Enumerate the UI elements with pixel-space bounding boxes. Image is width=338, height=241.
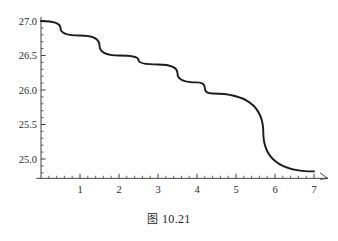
y-tick-label: 26.0 — [19, 85, 37, 96]
x-tick-label: 3 — [155, 184, 160, 195]
x-tick-label: 4 — [194, 184, 200, 195]
x-tick-label: 7 — [311, 184, 316, 195]
y-tick-label: 25.5 — [19, 119, 37, 130]
y-tick-label: 25.0 — [19, 154, 37, 165]
caption-prefix: 图 — [147, 213, 158, 226]
figure-caption: 图 10.21 — [0, 210, 338, 227]
x-axis-tick-labels: 1234567 — [77, 184, 316, 195]
x-tick-label: 5 — [233, 184, 238, 195]
y-axis-tick-labels: 25.025.526.026.527.0 — [19, 16, 37, 165]
x-tick-label: 6 — [272, 184, 277, 195]
line-chart: 1234567 25.025.526.026.527.0 — [0, 0, 338, 241]
y-tick-label: 26.5 — [19, 50, 37, 61]
y-tick-label: 27.0 — [19, 16, 37, 27]
x-tick-label: 2 — [116, 184, 121, 195]
x-axis-major-ticks — [80, 174, 314, 179]
x-tick-label: 1 — [77, 184, 82, 195]
figure-container: 1234567 25.025.526.026.527.0 图 10.21 — [0, 0, 338, 241]
caption-number: 10.21 — [162, 212, 191, 226]
data-series-curve — [41, 21, 314, 171]
